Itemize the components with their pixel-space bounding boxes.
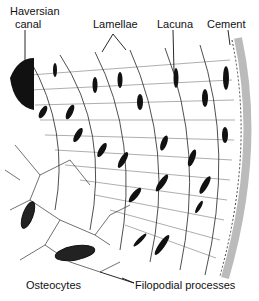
label-haversian-canal-1: Haversian	[10, 5, 60, 17]
lacunae	[37, 63, 229, 257]
label-cement: Cement	[207, 18, 246, 30]
osteon-diagram: Haversian canal Lamellae Lacuna Cement O…	[0, 0, 259, 301]
label-lacuna: Lacuna	[157, 18, 193, 30]
osteon-illustration	[0, 0, 259, 301]
label-haversian-canal-2: canal	[15, 18, 41, 30]
label-filopodial-processes: Filopodial processes	[135, 279, 235, 291]
label-lamellae: Lamellae	[93, 18, 138, 30]
haversian-canal	[10, 58, 34, 110]
label-osteocytes: Osteocytes	[26, 279, 81, 291]
